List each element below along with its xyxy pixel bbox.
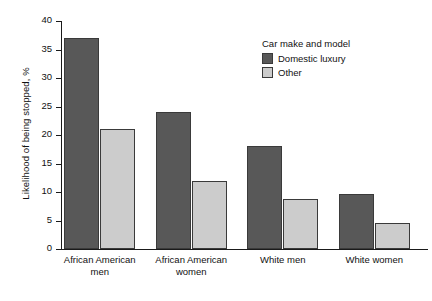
bar	[100, 129, 135, 249]
y-axis-tick-label: 10	[10, 186, 52, 196]
bar	[64, 38, 99, 249]
bar	[339, 194, 374, 249]
bar	[247, 146, 282, 249]
y-axis-tick-label: 5	[10, 215, 52, 225]
bar	[156, 112, 191, 249]
x-axis-category-label: White women	[319, 254, 429, 266]
legend-item: Domestic luxury	[262, 53, 350, 64]
bar-chart: Likelihood of being stopped, % 403530252…	[0, 0, 432, 301]
y-axis-tick-label: 40	[10, 15, 52, 25]
y-axis-tick-label: 35	[10, 44, 52, 54]
legend-title: Car make and model	[262, 38, 350, 49]
y-axis-tick-label: 25	[10, 101, 52, 111]
legend-swatch-icon	[262, 53, 273, 64]
legend-label: Other	[278, 67, 302, 78]
category-label-line: White women	[319, 254, 429, 266]
category-label-line: women	[136, 266, 246, 278]
bar	[192, 181, 227, 249]
plot-area	[62, 21, 428, 249]
legend-items: Domestic luxuryOther	[262, 53, 350, 78]
x-axis-line	[61, 249, 428, 250]
legend: Car make and model Domestic luxuryOther	[262, 38, 350, 78]
y-axis-tick-label: 0	[10, 243, 52, 253]
bar	[283, 199, 318, 249]
y-axis-tick-label: 30	[10, 72, 52, 82]
y-axis-tick-label: 15	[10, 158, 52, 168]
y-axis-tick	[56, 249, 62, 250]
legend-label: Domestic luxury	[278, 53, 346, 64]
y-axis-tick-label: 20	[10, 129, 52, 139]
bar	[375, 223, 410, 249]
legend-item: Other	[262, 67, 350, 78]
legend-swatch-icon	[262, 67, 273, 78]
